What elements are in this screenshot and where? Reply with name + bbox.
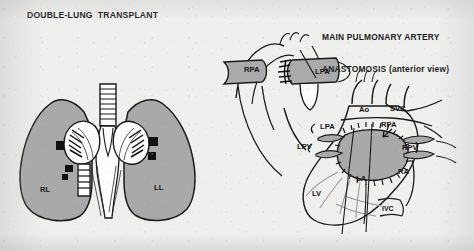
pa-title-line-1: MAIN PULMONARY ARTERY [322, 32, 449, 43]
ivc-shape [378, 199, 400, 201]
label-ra: RA [398, 168, 409, 176]
label-rpa-upper: RPA [244, 66, 259, 74]
mediastinal-vessel-contours [238, 86, 306, 176]
pa-branchlets [280, 33, 309, 44]
label-ll: LL [154, 184, 163, 192]
lpa-stump-lower [300, 84, 318, 110]
pa-title-line-2: ANASTOMOSIS (anterior view) [322, 64, 449, 75]
ivc-wall [400, 200, 403, 216]
label-lv: LV [312, 190, 321, 198]
label-lpa-heart: LPA [320, 123, 335, 131]
label-svc: SVC [390, 105, 406, 113]
trachea-shape [100, 84, 116, 126]
label-ao: Ao [359, 106, 369, 114]
lpa-hook-left [311, 124, 315, 133]
label-la: LA [356, 175, 366, 183]
page-title-double-lung-transplant: DOUBLE-LUNG TRANSPLANT [27, 10, 158, 21]
label-rpa-heart: RPA [381, 121, 396, 129]
trachea-cartilage-rings [100, 89, 116, 119]
label-rl: RL [40, 186, 50, 194]
label-rpv: RPV [402, 144, 418, 152]
label-lpv: LPV [297, 143, 312, 151]
right-bronchus-stump [78, 164, 90, 196]
ivc-shape-2 [380, 215, 402, 217]
page-title-pa-anastomosis: MAIN PULMONARY ARTERY ANASTOMOSIS (anter… [322, 11, 449, 95]
label-lpa-upper: LPA [315, 68, 330, 76]
illustration-figure: DOUBLE-LUNG TRANSPLANT MAIN PULMONARY AR… [0, 0, 474, 251]
double-lung-drawing [20, 84, 195, 221]
label-ivc: IVC [382, 205, 394, 212]
